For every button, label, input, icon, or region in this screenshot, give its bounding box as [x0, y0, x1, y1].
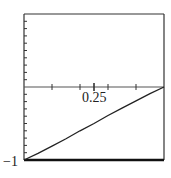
x-tick-label: 0.25 [82, 91, 107, 105]
y-min-label: −1 [3, 155, 18, 169]
chart-plot [0, 0, 171, 178]
